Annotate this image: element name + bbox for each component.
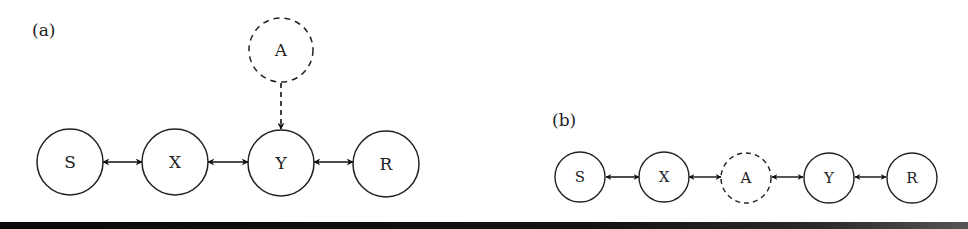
node-a-label: A [274,40,288,60]
node-y: Y [804,153,854,203]
panel-a-label: (a) [32,20,55,40]
bottom-rule [0,222,968,229]
node-x-label: X [659,168,670,186]
panel-a: (a) S X Y R A [32,18,419,197]
node-y: Y [248,130,314,196]
node-r: R [887,153,937,203]
node-a-latent: A [721,153,771,203]
node-x-label: X [169,152,182,172]
node-s: S [37,129,103,195]
node-a-label: A [740,169,752,187]
node-x: X [142,129,208,195]
panel-b: (b) S X A Y R [552,110,937,203]
node-s-label: S [575,168,585,186]
diagram-canvas: (a) S X Y R A (b) [0,0,968,229]
node-a-latent: A [249,18,313,82]
node-y-label: Y [274,153,287,173]
node-y-label: Y [823,169,835,187]
node-r-label: R [380,154,394,174]
node-s: S [555,152,605,202]
node-x: X [639,152,689,202]
node-r: R [353,131,419,197]
node-s-label: S [64,152,76,172]
node-r-label: R [906,169,918,187]
panel-b-label: (b) [552,110,576,130]
